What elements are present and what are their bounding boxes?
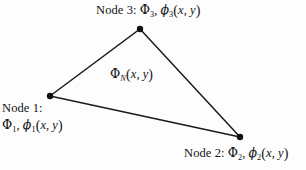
node-1-paren-close: )	[58, 118, 63, 133]
node-1-potential-symbol: Φ	[2, 117, 12, 132]
node-3-paren-close: )	[196, 3, 201, 18]
node-1-prefix: Node 1:	[2, 101, 43, 115]
node-1-comma: ,	[17, 118, 20, 132]
node-3-potential-symbol: Φ	[140, 2, 150, 17]
node-2-basis-symbol: ϕ	[248, 145, 257, 160]
node-1-arg-comma: ,	[46, 118, 49, 132]
node-2-prefix: Node 2:	[184, 146, 225, 160]
node-2-comma: ,	[242, 146, 245, 160]
interior-potential-label: ΦN(x,y)	[110, 66, 153, 84]
node-1-dot	[47, 93, 53, 99]
interior-potential-symbol: Φ	[110, 66, 120, 81]
node-2-paren-close: )	[284, 146, 289, 161]
node-3-label: Node 3:Φ3,ϕ3(x,y)	[96, 2, 200, 20]
interior-arg-comma: ,	[136, 67, 139, 81]
finite-element-triangle-figure: Node 3:Φ3,ϕ3(x,y) Node 1: Φ1,ϕ1(x,y) Nod…	[0, 0, 306, 170]
node-2-label: Node 2:Φ2,ϕ2(x,y)	[184, 145, 288, 163]
node-1-label: Node 1: Φ1,ϕ1(x,y)	[2, 100, 63, 135]
node-2-arg-comma: ,	[272, 146, 275, 160]
node-2-potential-symbol: Φ	[228, 145, 238, 160]
node-3-dot	[137, 26, 143, 32]
node-1-label-line2: Φ1,ϕ1(x,y)	[2, 117, 63, 135]
node-3-prefix: Node 3:	[96, 3, 137, 17]
node-2-dot	[237, 134, 243, 140]
interior-paren-close: )	[148, 67, 153, 82]
node-3-arg-comma: ,	[184, 3, 187, 17]
node-3-basis-symbol: ϕ	[160, 2, 169, 17]
node-3-comma: ,	[154, 3, 157, 17]
